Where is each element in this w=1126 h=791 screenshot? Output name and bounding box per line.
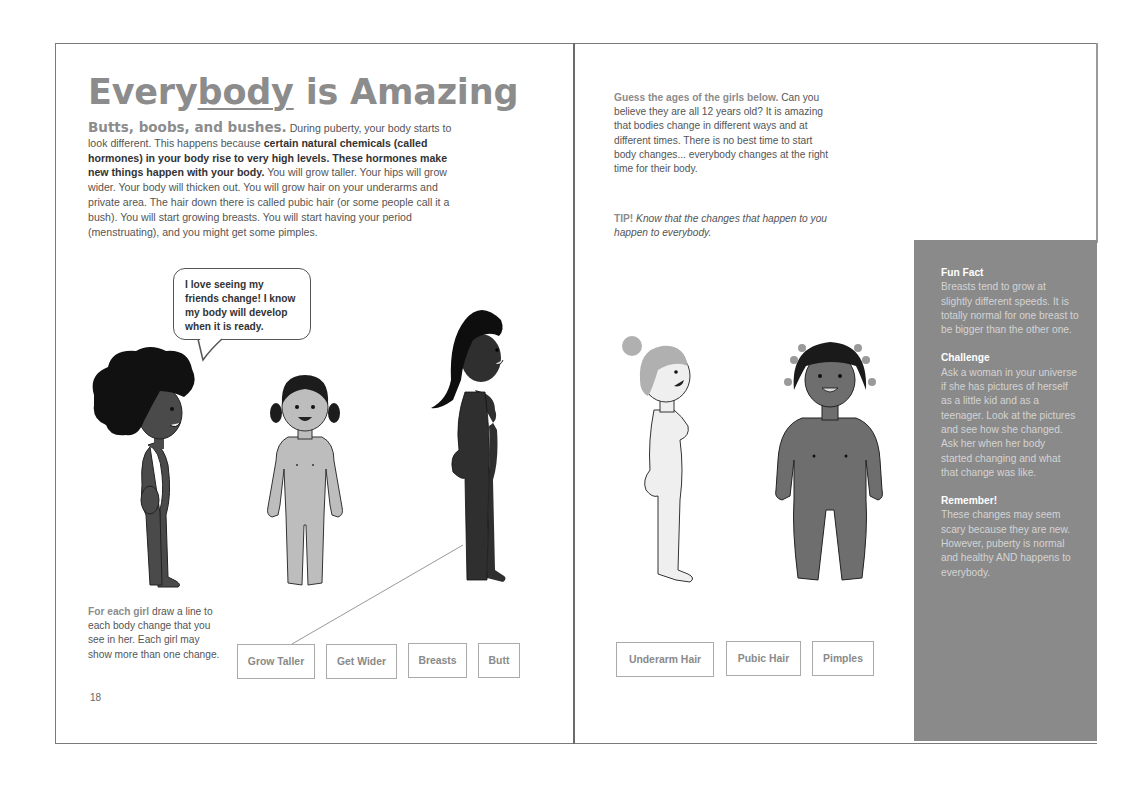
- fun-fact-text: Breasts tend to grow at slightly differe…: [941, 280, 1079, 337]
- tip-lead: TIP!: [614, 213, 633, 224]
- page-title: Everybody is Amazing: [88, 72, 518, 112]
- remember-heading: Remember!: [941, 494, 1079, 508]
- instructions-lead: For each girl: [88, 606, 149, 617]
- choice-underarm-hair[interactable]: Underarm Hair: [616, 642, 714, 677]
- figure-girl-pigtails-front: [262, 365, 347, 590]
- guess-ages-lead: Guess the ages of the girls below.: [614, 92, 778, 103]
- intro-lead: Butts, boobs, and bushes.: [88, 119, 287, 135]
- activity-instructions: For each girl draw a line to each body c…: [88, 605, 223, 662]
- guess-ages-text: Can you believe they are all 12 years ol…: [614, 92, 828, 174]
- title-part: Every: [88, 72, 198, 112]
- figure-girl-beaded-hair-front: [772, 330, 887, 585]
- book-spine: [573, 43, 575, 744]
- challenge-heading: Challenge: [941, 351, 1079, 365]
- page-edge: [1096, 43, 1098, 243]
- guess-ages-paragraph: Guess the ages of the girls below. Can y…: [614, 91, 829, 176]
- challenge-text: Ask a woman in your universe if she has …: [941, 366, 1079, 480]
- remember-text: These changes may seem scary because the…: [941, 508, 1079, 579]
- choice-pimples[interactable]: Pimples: [812, 641, 874, 676]
- tip-text: Know that the changes that happen to you…: [614, 213, 827, 238]
- figure-girl-bun-side: [618, 330, 708, 585]
- sidebar-box: Fun Fact Breasts tend to grow at slightl…: [914, 240, 1097, 741]
- choice-butt[interactable]: Butt: [478, 643, 520, 678]
- tip-paragraph: TIP! Know that the changes that happen t…: [614, 212, 829, 240]
- choice-get-wider[interactable]: Get Wider: [326, 644, 397, 679]
- speech-bubble-tail-icon: [192, 338, 232, 364]
- figure-girl-long-hair-side: [425, 300, 515, 590]
- choice-breasts[interactable]: Breasts: [408, 643, 467, 678]
- speech-bubble: I love seeing my friends change! I know …: [173, 268, 311, 340]
- title-underlined: body: [198, 72, 294, 112]
- choice-pubic-hair[interactable]: Pubic Hair: [726, 641, 801, 676]
- fun-fact-heading: Fun Fact: [941, 266, 1079, 280]
- page-number: 18: [90, 692, 101, 703]
- intro-paragraph: Butts, boobs, and bushes. During puberty…: [88, 120, 453, 239]
- title-part: is Amazing: [294, 72, 519, 112]
- figure-girl-curly-hair-side: [88, 345, 203, 590]
- choice-grow-taller[interactable]: Grow Taller: [237, 644, 315, 679]
